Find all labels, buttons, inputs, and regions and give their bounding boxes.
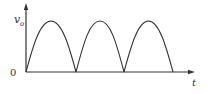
- y-axis-label-subscript: o: [20, 20, 24, 28]
- x-axis-label: t: [192, 77, 197, 88]
- x-axis-arrow-icon: [188, 70, 195, 74]
- waveform-hump-2: [76, 21, 124, 72]
- waveform-hump-3: [124, 21, 173, 72]
- waveform-diagram: v o 0 t: [0, 0, 210, 94]
- waveform-hump-1: [26, 21, 76, 72]
- origin-label: 0: [10, 67, 16, 78]
- y-axis-arrow-icon: [24, 3, 28, 10]
